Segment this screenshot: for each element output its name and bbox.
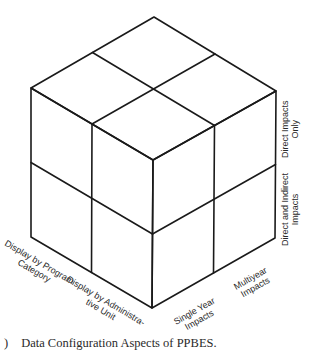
label-direct-impacts-only: Direct Impacts Only [280, 100, 300, 158]
label-line: Direct Impacts [280, 100, 290, 158]
label-line: Impacts [290, 173, 300, 246]
caption-text: Data Configuration Aspects of PPBES. [21, 336, 216, 350]
figure-caption: ) Data Configuration Aspects of PPBES. [4, 336, 217, 351]
cube-drawing [0, 0, 316, 358]
label-line: Only [290, 100, 300, 158]
figure: Display by Program Category Display by A… [0, 0, 316, 358]
caption-number-fragment: ) [4, 336, 18, 351]
top-divider-2 [92, 54, 215, 124]
label-line: Direct and Indirect [280, 173, 290, 246]
label-direct-and-indirect-impacts: Direct and Indirect Impacts [280, 173, 300, 246]
